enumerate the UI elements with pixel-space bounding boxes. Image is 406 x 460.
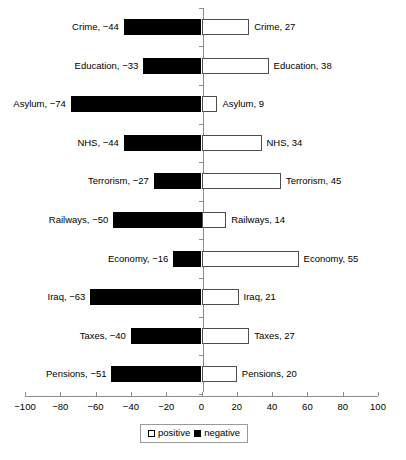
- negative-value-label: Terrorism, −27: [88, 174, 149, 188]
- positive-bar: [202, 173, 281, 189]
- negative-value-label: Crime, −44: [72, 20, 119, 34]
- x-tick-mark: [307, 392, 308, 396]
- chart-legend: positivenegative: [140, 424, 248, 443]
- positive-value-label: Crime, 27: [254, 20, 295, 34]
- negative-bar: [131, 328, 202, 344]
- legend-item: negative: [194, 427, 240, 439]
- x-tick-mark: [202, 392, 203, 396]
- bar-row: Railways, −50Railways, 14: [0, 212, 406, 228]
- positive-value-label: Economy, 55: [304, 252, 359, 266]
- negative-value-label: Economy, −16: [108, 252, 168, 266]
- black-square-icon: [194, 430, 201, 437]
- negative-bar: [124, 19, 202, 35]
- legend-label: negative: [204, 427, 240, 439]
- bar-row: Economy, −16Economy, 55: [0, 251, 406, 267]
- negative-bar: [90, 289, 201, 305]
- category-tick: [199, 162, 203, 163]
- category-tick: [199, 8, 203, 9]
- category-tick: [199, 317, 203, 318]
- white-square-icon: [148, 430, 155, 437]
- negative-bar: [173, 251, 201, 267]
- positive-value-label: Terrorism, 45: [286, 174, 341, 188]
- bar-row: Crime, −44Crime, 27: [0, 19, 406, 35]
- positive-bar: [202, 328, 250, 344]
- positive-bar: [202, 289, 239, 305]
- x-tick-mark: [96, 392, 97, 396]
- bar-row: Taxes, −40Taxes, 27: [0, 328, 406, 344]
- positive-value-label: Education, 38: [274, 59, 332, 73]
- negative-value-label: Railways, −50: [49, 213, 108, 227]
- legend-item: positive: [148, 427, 190, 439]
- positive-value-label: Asylum, 9: [222, 97, 264, 111]
- category-tick: [199, 278, 203, 279]
- negative-value-label: Iraq, −63: [48, 290, 86, 304]
- negative-value-label: NHS, −44: [77, 136, 118, 150]
- positive-value-label: Taxes, 27: [254, 329, 295, 343]
- legend-label: positive: [158, 427, 190, 439]
- negative-value-label: Taxes, −40: [80, 329, 126, 343]
- negative-bar: [124, 135, 202, 151]
- diverging-bar-chart: Crime, −44Crime, 27Education, −33Educati…: [0, 0, 406, 460]
- positive-bar: [202, 212, 227, 228]
- bar-row: Iraq, −63Iraq, 21: [0, 289, 406, 305]
- x-tick-mark: [343, 392, 344, 396]
- bar-row: Asylum, −74Asylum, 9: [0, 96, 406, 112]
- positive-bar: [202, 96, 218, 112]
- positive-value-label: Railways, 14: [231, 213, 285, 227]
- negative-value-label: Pensions, −51: [46, 367, 106, 381]
- bar-row: Education, −33Education, 38: [0, 58, 406, 74]
- positive-bar: [202, 366, 237, 382]
- x-tick-mark: [25, 392, 26, 396]
- x-tick-mark: [131, 392, 132, 396]
- positive-bar: [202, 19, 250, 35]
- category-tick: [199, 85, 203, 86]
- positive-value-label: Pensions, 20: [242, 367, 297, 381]
- bar-row: Pensions, −51Pensions, 20: [0, 366, 406, 382]
- x-tick-mark: [60, 392, 61, 396]
- bar-row: NHS, −44NHS, 34: [0, 135, 406, 151]
- x-tick-label: 100: [353, 401, 403, 412]
- negative-bar: [111, 366, 201, 382]
- positive-bar: [202, 58, 269, 74]
- negative-bar: [143, 58, 201, 74]
- negative-bar: [71, 96, 202, 112]
- category-tick: [199, 201, 203, 202]
- category-tick: [199, 355, 203, 356]
- x-tick-mark: [378, 392, 379, 396]
- negative-bar: [113, 212, 201, 228]
- bar-row: Terrorism, −27Terrorism, 45: [0, 173, 406, 189]
- negative-value-label: Asylum, −74: [13, 97, 66, 111]
- positive-value-label: Iraq, 21: [244, 290, 276, 304]
- x-tick-mark: [166, 392, 167, 396]
- category-tick: [199, 239, 203, 240]
- positive-bar: [202, 251, 299, 267]
- negative-bar: [154, 173, 202, 189]
- category-tick: [199, 124, 203, 125]
- x-tick-mark: [237, 392, 238, 396]
- x-tick-mark: [272, 392, 273, 396]
- category-tick: [199, 46, 203, 47]
- plot-area: Crime, −44Crime, 27Education, −33Educati…: [0, 0, 406, 392]
- positive-bar: [202, 135, 262, 151]
- negative-value-label: Education, −33: [75, 59, 139, 73]
- positive-value-label: NHS, 34: [267, 136, 303, 150]
- x-axis-line: [25, 396, 378, 397]
